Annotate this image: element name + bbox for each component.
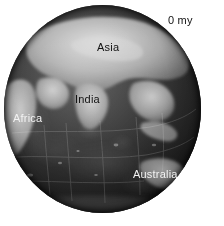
label-india: India: [75, 93, 100, 105]
globe-rim: [4, 5, 201, 213]
age-label: 0 my: [168, 14, 193, 26]
label-africa: Africa: [13, 112, 42, 124]
figure-canvas: 0 my Asia India Africa Australia: [0, 0, 224, 226]
label-asia: Asia: [97, 41, 119, 53]
earth-globe: [4, 5, 201, 213]
label-australia: Australia: [133, 168, 178, 180]
